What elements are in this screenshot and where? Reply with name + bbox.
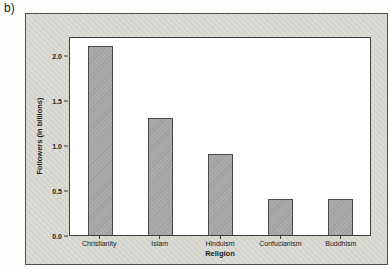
y-tick-label: 0.5	[52, 188, 62, 195]
x-tick-label-confucianism: Confucianism	[250, 240, 310, 248]
x-tick-label-buddhism: Buddhism	[311, 240, 371, 248]
y-tick-mark	[64, 101, 68, 102]
y-tick-mark	[64, 146, 68, 147]
y-tick-label: 1.0	[52, 143, 62, 150]
y-tick-mark	[64, 56, 68, 57]
x-cell-christianity: Christianity	[69, 236, 129, 248]
x-cell-islam: Islam	[129, 236, 189, 248]
figure-label: b)	[4, 1, 15, 15]
y-tick-0.5: 0.5	[52, 188, 68, 195]
x-tick-mark	[340, 236, 341, 239]
y-tick-1.5: 1.5	[52, 98, 68, 105]
y-tick-1.0: 1.0	[52, 143, 68, 150]
bars-container	[70, 38, 370, 235]
x-tick-label-islam: Islam	[129, 240, 189, 248]
bar-cell-islam	[130, 38, 190, 235]
bar-cell-hinduism	[190, 38, 250, 235]
x-cell-hinduism: Hinduism	[190, 236, 250, 248]
y-tick-0.0: 0.0	[52, 233, 68, 240]
x-tick-label-hinduism: Hinduism	[190, 240, 250, 248]
x-tick-label-christianity: Christianity	[69, 240, 129, 248]
y-axis-ticks: 0.00.51.01.52.0	[26, 37, 68, 236]
plot-area	[69, 37, 371, 236]
x-axis-labels: ChristianityIslamHinduismConfucianismBud…	[69, 236, 371, 248]
x-tick-mark	[280, 236, 281, 239]
y-tick-2.0: 2.0	[52, 53, 68, 60]
bar-buddhism	[328, 199, 353, 235]
x-axis-title: Religion	[69, 249, 371, 258]
y-tick-mark	[64, 191, 68, 192]
bar-confucianism	[268, 199, 293, 235]
bar-cell-buddhism	[310, 38, 370, 235]
x-cell-confucianism: Confucianism	[250, 236, 310, 248]
x-tick-mark	[220, 236, 221, 239]
y-tick-label: 0.0	[52, 233, 62, 240]
bar-islam	[148, 118, 173, 235]
x-tick-mark	[159, 236, 160, 239]
bar-cell-confucianism	[250, 38, 310, 235]
x-tick-mark	[99, 236, 100, 239]
y-tick-label: 1.5	[52, 98, 62, 105]
bar-christianity	[88, 46, 113, 235]
bar-cell-christianity	[70, 38, 130, 235]
x-cell-buddhism: Buddhism	[311, 236, 371, 248]
y-tick-mark	[64, 236, 68, 237]
bar-hinduism	[208, 154, 233, 235]
y-tick-label: 2.0	[52, 53, 62, 60]
bar-chart: Followers (in billions) 0.00.51.01.52.0 …	[25, 13, 388, 265]
page: b) Followers (in billions) 0.00.51.01.52…	[0, 0, 391, 269]
